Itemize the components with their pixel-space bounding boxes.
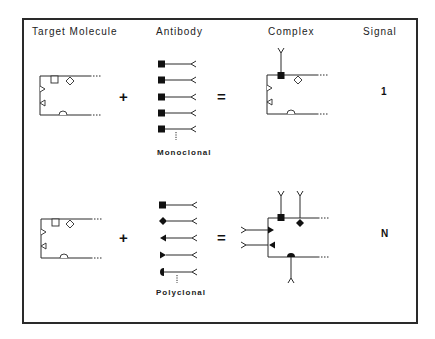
target-molecule-monoclonal — [40, 76, 102, 115]
bound-semicircle — [287, 253, 295, 257]
epitope-diamond — [294, 76, 302, 84]
antibody-square-head — [158, 61, 196, 68]
bound-triangle-left — [269, 242, 275, 249]
epitope-triangle-left — [41, 243, 46, 249]
epitope-triangle-right — [267, 85, 272, 91]
bound-triangle-right — [268, 227, 274, 234]
epitope-square — [51, 76, 58, 83]
diagram-graphics — [0, 0, 435, 339]
antibody-square-head — [158, 110, 196, 117]
bound-diamond — [296, 219, 304, 227]
epitope-triangle-left — [40, 100, 45, 106]
epitope-semicircle — [59, 111, 67, 115]
epitope-semicircle — [60, 254, 68, 258]
epitope-diamond — [66, 77, 74, 85]
epitope-diamond — [66, 220, 74, 228]
monoclonal-antibodies — [158, 61, 196, 141]
antibody-semicircle-head — [160, 268, 197, 276]
epitope-triangle-right — [40, 86, 45, 92]
antibody-diamond-head — [159, 217, 197, 225]
antibody-square-head — [158, 94, 196, 101]
bound-square — [278, 72, 285, 79]
antibody-square-head — [158, 126, 196, 133]
target-molecule-polyclonal — [41, 219, 103, 258]
polyclonal-antibodies — [159, 202, 197, 284]
epitope-triangle-left — [267, 99, 272, 105]
antibody-square-head — [159, 202, 197, 209]
complex-polyclonal — [241, 191, 330, 283]
antibody-square-head — [158, 77, 196, 84]
epitope-square — [52, 219, 59, 226]
complex-monoclonal — [267, 48, 329, 114]
diagram-canvas: Target Molecule Antibody Complex Signal … — [0, 0, 435, 339]
epitope-triangle-right — [41, 229, 46, 235]
epitope-semicircle — [287, 110, 295, 114]
antibody-triangle-left-head — [160, 235, 197, 242]
bound-square — [278, 214, 285, 221]
antibody-triangle-right-head — [160, 252, 197, 259]
